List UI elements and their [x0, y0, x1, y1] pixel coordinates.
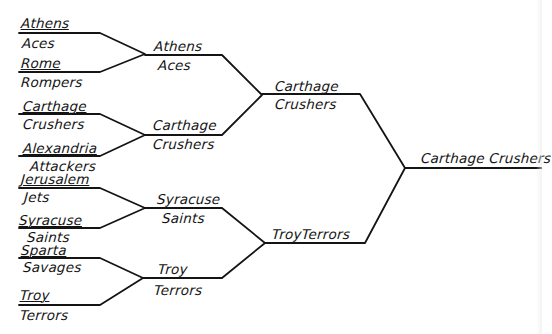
- team-r1-1-line2: Aces: [22, 37, 56, 51]
- team-r1-2-line1: Rome: [21, 57, 62, 71]
- team-r2-1-line2: Aces: [158, 59, 192, 73]
- team-r1-2-line2: Rompers: [21, 76, 84, 90]
- team-r1-4-line1: Alexandria: [23, 142, 98, 156]
- team-r2-2-line1: Carthage: [153, 119, 218, 133]
- team-r1-8-line1: Troy: [20, 289, 51, 303]
- team-r1-5-line2: Jets: [24, 191, 50, 205]
- team-r1-7-line1: Sparta: [21, 244, 68, 258]
- team-r3-2-line1: TroyTerrors: [272, 228, 351, 242]
- team-r2-2-line2: Crushers: [153, 138, 216, 152]
- team-r2-1-line1: Athens: [154, 40, 203, 54]
- team-r1-8-line2: Terrors: [20, 309, 69, 323]
- team-r2-4-line1: Troy: [158, 263, 189, 277]
- team-r2-3-line2: Saints: [162, 212, 206, 226]
- champion-label: Carthage Crushers: [421, 152, 552, 166]
- team-r1-3-line2: Crushers: [23, 118, 86, 132]
- team-r3-1-line2: Crushers: [275, 98, 338, 112]
- page-edge-shadow: [536, 0, 542, 334]
- team-r2-4-line2: Terrors: [154, 284, 203, 298]
- bracket-connector-r3: [262, 94, 405, 243]
- team-r1-1-line1: Athens: [21, 17, 70, 31]
- team-r1-7-line2: Savages: [23, 261, 82, 275]
- team-r1-6-line1: Syracuse: [19, 214, 83, 228]
- team-r3-1-line1: Carthage: [275, 80, 340, 94]
- team-r1-5-line1: Jerusalem: [21, 173, 91, 187]
- team-r2-3-line1: Syracuse: [157, 193, 221, 207]
- team-r1-3-line1: Carthage: [23, 100, 88, 114]
